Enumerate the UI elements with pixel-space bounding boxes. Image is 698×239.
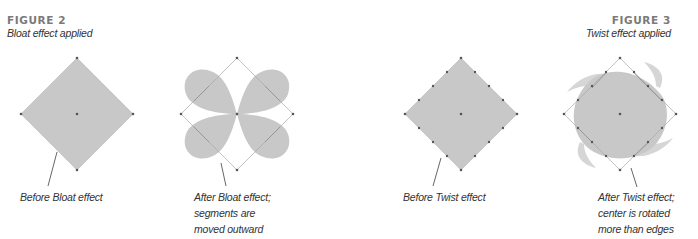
caption-line: segments are (194, 205, 271, 221)
caption-line: more than edges (598, 221, 675, 237)
caption-before-twist: Before Twist effect (403, 189, 485, 205)
caption-after-twist: After Twist effect; center is rotated mo… (598, 189, 675, 237)
caption-line: After Bloat effect; (194, 189, 271, 205)
caption-before-bloat: Before Bloat effect (20, 189, 103, 205)
leader-line-before-bloat (48, 152, 57, 186)
caption-line: Before Twist effect (403, 189, 485, 205)
before-bloat-diamond (20, 57, 135, 172)
after-bloat-shape (180, 57, 295, 172)
caption-line: center is rotated (598, 205, 675, 221)
after-twist-shape (563, 57, 678, 172)
caption-line: Before Bloat effect (20, 189, 103, 205)
before-twist-diamond (404, 57, 519, 172)
leader-line-after-twist (631, 168, 637, 187)
leader-line-after-bloat (221, 163, 226, 186)
leader-line-before-twist (433, 158, 441, 186)
illustration-canvas (0, 0, 698, 239)
caption-line: After Twist effect; (598, 189, 675, 205)
caption-line: moved outward (194, 221, 271, 237)
caption-after-bloat: After Bloat effect; segments are moved o… (194, 189, 271, 237)
